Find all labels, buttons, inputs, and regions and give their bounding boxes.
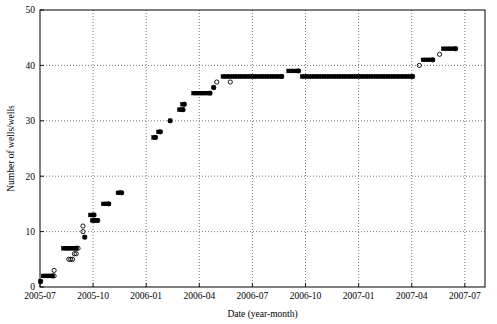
data-point-square xyxy=(153,136,157,140)
data-point-square xyxy=(181,108,185,112)
data-point-square xyxy=(297,69,301,73)
x-tick-label: 2007-04 xyxy=(396,291,428,301)
plot-background xyxy=(40,10,485,287)
y-tick-label: 10 xyxy=(26,227,36,237)
y-tick-label: 0 xyxy=(30,282,35,292)
x-axis-title: Date (year-month) xyxy=(227,309,297,320)
y-tick-label: 20 xyxy=(26,172,36,182)
data-point-square xyxy=(431,58,435,62)
data-point-square xyxy=(50,274,54,278)
data-point-square xyxy=(107,202,111,206)
data-point-square xyxy=(74,246,78,250)
x-tick-label: 2005-07 xyxy=(24,291,56,301)
data-point-square xyxy=(280,75,284,79)
x-tick-label: 2006-07 xyxy=(237,291,269,301)
data-point-square xyxy=(39,280,43,284)
y-axis-title: Number of wells/wells xyxy=(6,105,16,192)
data-point-square xyxy=(96,219,100,223)
y-tick-label: 40 xyxy=(26,61,36,71)
data-point-square xyxy=(182,102,186,106)
x-tick-label: 2005-10 xyxy=(77,291,109,301)
y-tick-label: 50 xyxy=(26,5,36,15)
x-tick-label: 2006-04 xyxy=(183,291,215,301)
data-point-square xyxy=(212,86,216,90)
x-tick-label: 2006-01 xyxy=(130,291,162,301)
data-point-square xyxy=(454,47,458,51)
x-tick-label: 2007-01 xyxy=(343,291,375,301)
data-point-square xyxy=(168,119,172,123)
data-point-square xyxy=(411,75,415,79)
x-tick-label: 2007-07 xyxy=(449,291,481,301)
chart-figure: 2005-072005-102006-012006-042006-072006-… xyxy=(0,0,497,324)
data-point-square xyxy=(83,235,87,239)
data-point-square xyxy=(158,130,162,134)
y-tick-label: 30 xyxy=(26,116,36,126)
x-tick-label: 2006-10 xyxy=(290,291,322,301)
data-point-square xyxy=(120,191,124,195)
data-point-square xyxy=(208,91,212,95)
scatter-plot: 2005-072005-102006-012006-042006-072006-… xyxy=(0,0,497,324)
data-point-square xyxy=(92,213,96,217)
